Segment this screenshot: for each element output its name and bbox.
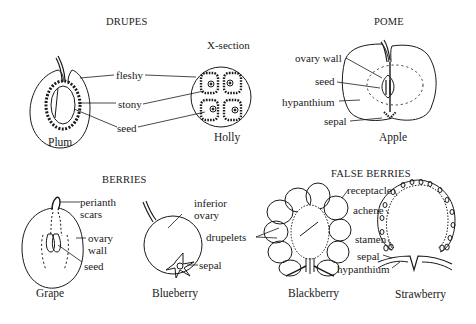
label-seed-pome: seed	[315, 75, 335, 87]
berries-heading: BERRIES	[102, 174, 147, 185]
label-sepal-pome: sepal	[324, 115, 347, 127]
xsection-label: X-section	[207, 39, 250, 51]
false-berries-heading: FALSE BERRIES	[331, 168, 411, 179]
plum-drawing	[30, 56, 90, 148]
grape-drawing	[22, 197, 83, 288]
label-stamen: stamen	[355, 233, 386, 245]
label-sepal-false: sepal	[357, 250, 380, 262]
specimen-holly: Holly	[214, 131, 240, 143]
label-perianth: perianth	[80, 196, 116, 208]
label-inferior: inferior	[194, 197, 227, 209]
specimen-apple: Apple	[379, 131, 407, 143]
specimen-blackberry: Blackberry	[288, 287, 339, 299]
specimen-plum: Plum	[48, 136, 72, 148]
label-ovary-wall: ovary wall	[295, 52, 342, 64]
label-stony: stony	[118, 98, 142, 110]
label-inferior-ovary: ovary	[194, 209, 219, 221]
specimen-blueberry: Blueberry	[152, 287, 198, 299]
label-seed-drupe: seed	[117, 122, 137, 134]
drupes-heading: DRUPES	[106, 16, 147, 27]
label-ovary: ovary	[88, 232, 113, 244]
label-hypanthium-pome: hypanthium	[282, 96, 335, 108]
holly-drawing	[191, 67, 251, 127]
label-drupelets: drupelets	[206, 231, 246, 243]
label-sepal-blueberry: sepal	[199, 259, 222, 271]
label-seed-grape: seed	[84, 260, 104, 272]
label-wall: wall	[88, 244, 107, 256]
label-fleshy: fleshy	[116, 69, 143, 81]
label-hypanthium-false: hypanthium	[337, 263, 390, 275]
specimen-grape: Grape	[36, 287, 64, 299]
label-achene: achene	[353, 204, 384, 216]
label-receptacle: receptacle	[347, 184, 392, 196]
pome-heading: POME	[374, 16, 404, 27]
specimen-strawberry: Strawberry	[395, 288, 446, 300]
label-scars: scars	[80, 208, 102, 220]
apple-drawing	[342, 40, 436, 120]
